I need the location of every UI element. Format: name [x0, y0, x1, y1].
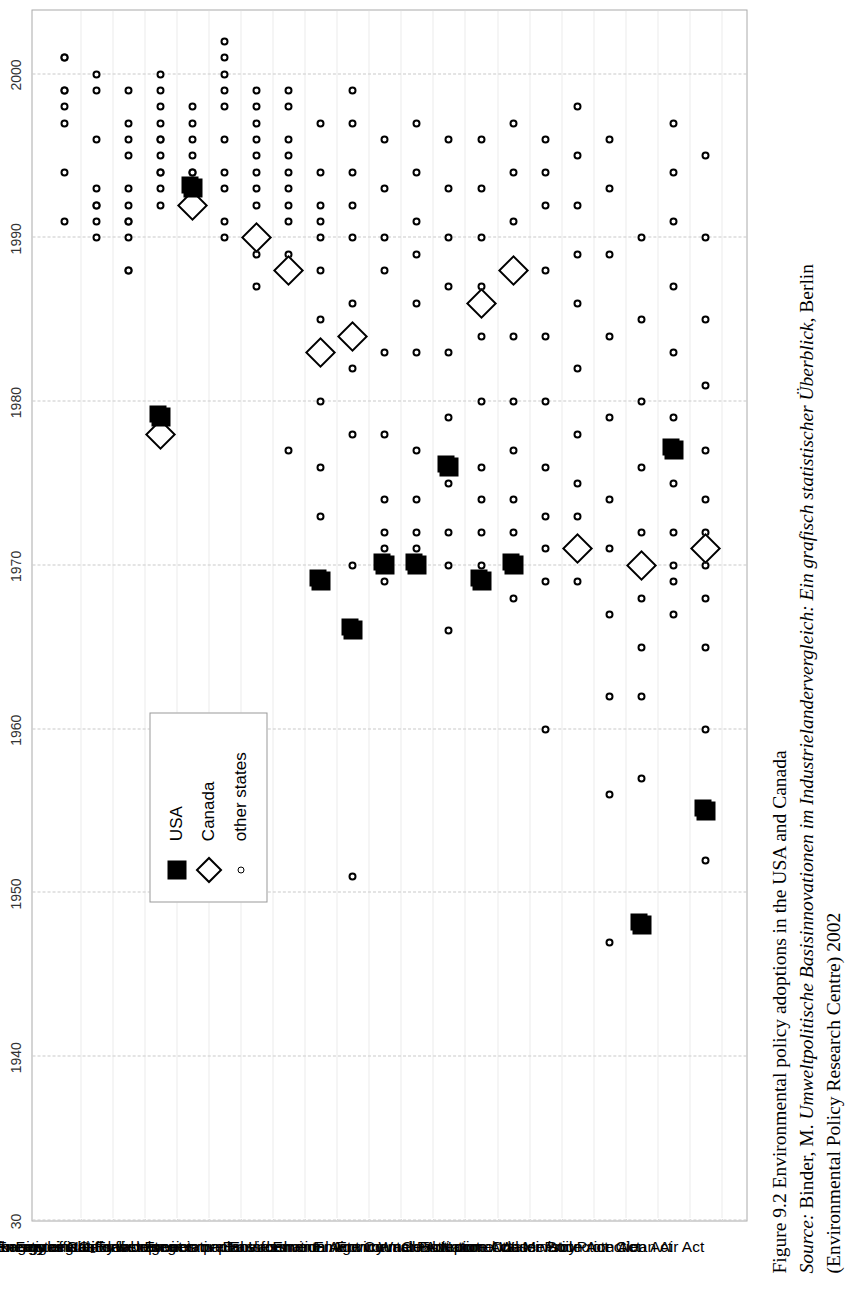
data-point-other-states — [541, 201, 549, 209]
year-tick-label: 30 — [7, 1213, 23, 1229]
data-point-other-states — [156, 102, 164, 110]
legend-marker-small-open-circle-icon — [237, 853, 244, 887]
data-point-canada — [689, 533, 720, 564]
data-point-other-states — [60, 53, 68, 61]
data-point-other-states — [156, 151, 164, 159]
data-point-other-states — [509, 594, 517, 602]
year-tick-label: 1950 — [7, 878, 23, 909]
data-point-other-states — [60, 86, 68, 94]
legend-label: other states — [230, 752, 250, 841]
data-point-other-states — [444, 348, 452, 356]
data-point-other-states — [124, 201, 132, 209]
data-point-other-states — [412, 545, 420, 553]
data-point-other-states — [573, 577, 581, 585]
data-point-other-states — [669, 610, 677, 618]
data-point-other-states — [124, 266, 132, 274]
data-point-other-states — [477, 528, 485, 536]
data-point-other-states — [284, 151, 292, 159]
data-point-other-states — [316, 119, 324, 127]
data-point-other-states — [284, 184, 292, 192]
caption-line-source: Source: Binder, M. Umweltpolitische Basi… — [792, 33, 819, 1273]
data-point-other-states — [509, 119, 517, 127]
data-point-other-states — [220, 233, 228, 241]
data-point-other-states — [348, 119, 356, 127]
gridline-row — [304, 10, 305, 1220]
data-point-other-states — [124, 86, 132, 94]
data-point-other-states — [348, 364, 356, 372]
data-point-usa — [407, 555, 426, 574]
data-point-other-states — [477, 184, 485, 192]
data-point-other-states — [477, 495, 485, 503]
data-point-other-states — [573, 102, 581, 110]
legend-swatch — [167, 860, 186, 879]
data-point-other-states — [669, 413, 677, 421]
gridline-row — [657, 10, 658, 1220]
data-point-other-states — [701, 594, 709, 602]
gridline-row — [176, 10, 177, 1220]
data-point-other-states — [605, 545, 613, 553]
data-point-other-states — [509, 332, 517, 340]
data-point-other-states — [509, 528, 517, 536]
data-point-other-states — [284, 86, 292, 94]
data-point-usa — [632, 915, 651, 934]
data-point-other-states — [637, 594, 645, 602]
gridline-row — [432, 10, 433, 1220]
data-point-other-states — [412, 299, 420, 307]
gridline-row — [497, 10, 498, 1220]
data-point-other-states — [412, 250, 420, 258]
data-point-other-states — [220, 53, 228, 61]
gridline-year — [32, 73, 746, 74]
data-point-other-states — [188, 102, 196, 110]
gridline-row — [80, 10, 81, 1220]
data-point-other-states — [156, 135, 164, 143]
data-point-other-states — [444, 561, 452, 569]
data-point-other-states — [477, 463, 485, 471]
data-point-other-states — [573, 201, 581, 209]
data-point-other-states — [220, 135, 228, 143]
data-point-other-states — [252, 151, 260, 159]
data-point-canada — [465, 287, 496, 318]
gridline-year — [32, 891, 746, 892]
gridline-row — [689, 10, 690, 1220]
data-point-other-states — [60, 119, 68, 127]
data-point-usa — [664, 440, 683, 459]
year-tick-2000: 2000 — [7, 59, 23, 90]
legend-item-usa: USA — [166, 806, 186, 887]
legend-label: USA — [166, 806, 186, 841]
data-point-other-states — [252, 168, 260, 176]
data-point-usa — [472, 571, 491, 590]
data-point-usa — [696, 801, 715, 820]
data-point-other-states — [92, 86, 100, 94]
data-point-other-states — [444, 626, 452, 634]
data-point-other-states — [380, 184, 388, 192]
data-point-other-states — [156, 119, 164, 127]
year-tick-1950: 1950 — [7, 878, 23, 909]
data-point-other-states — [92, 184, 100, 192]
data-point-other-states — [380, 266, 388, 274]
category-label-20: Clean Air Act — [615, 1237, 704, 1255]
data-point-other-states — [701, 446, 709, 454]
legend-marker-open-diamond-icon — [199, 853, 218, 887]
data-point-other-states — [380, 545, 388, 553]
data-point-canada — [561, 533, 592, 564]
year-tick-label: 1980 — [7, 387, 23, 418]
data-point-other-states — [605, 250, 613, 258]
data-point-other-states — [669, 119, 677, 127]
gridline-row — [336, 10, 337, 1220]
data-point-other-states — [92, 135, 100, 143]
data-point-other-states — [252, 282, 260, 290]
data-point-other-states — [605, 495, 613, 503]
data-point-other-states — [348, 86, 356, 94]
data-point-other-states — [220, 37, 228, 45]
data-point-other-states — [637, 692, 645, 700]
caption-title-text: Figure 9.2 Environmental policy adoption… — [768, 750, 789, 1273]
data-point-other-states — [380, 135, 388, 143]
data-point-other-states — [541, 545, 549, 553]
data-point-other-states — [188, 151, 196, 159]
data-point-other-states — [124, 119, 132, 127]
data-point-other-states — [412, 528, 420, 536]
data-point-other-states — [284, 135, 292, 143]
data-point-other-states — [605, 184, 613, 192]
data-point-other-states — [412, 217, 420, 225]
data-point-other-states — [637, 528, 645, 536]
